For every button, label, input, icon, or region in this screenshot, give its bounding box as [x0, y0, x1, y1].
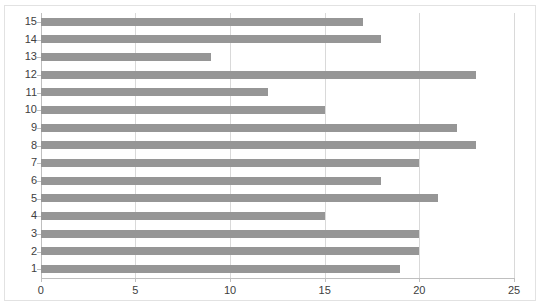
bar-row: [41, 31, 514, 49]
bar-category-1[interactable]: [41, 265, 401, 273]
y-axis-tick-label: 11: [5, 87, 37, 98]
y-tick-mark-8: [37, 146, 41, 147]
y-axis-tick-label: 6: [5, 175, 37, 186]
bar-row: [41, 119, 514, 137]
bar-row: [41, 260, 514, 278]
bar-category-14[interactable]: [41, 35, 382, 43]
y-axis-tick-label: 15: [5, 16, 37, 27]
x-axis-tick-label: 10: [210, 284, 250, 296]
y-axis-tick-label: 5: [5, 193, 37, 204]
y-tick-mark-13: [37, 57, 41, 58]
y-axis-tick-label: 12: [5, 69, 37, 80]
y-tick-mark-9: [37, 128, 41, 129]
bar-row: [41, 101, 514, 119]
y-axis-tick-label: 14: [5, 34, 37, 45]
bar-category-9[interactable]: [41, 124, 458, 132]
bar-row: [41, 13, 514, 31]
x-tick-mark-5: [135, 278, 136, 282]
y-axis-tick-label: 3: [5, 228, 37, 239]
x-tick-mark-0: [41, 278, 42, 282]
y-tick-mark-1: [37, 269, 41, 270]
bar-category-15[interactable]: [41, 18, 363, 26]
y-axis-tick-label: 13: [5, 51, 37, 62]
y-tick-mark-10: [37, 110, 41, 111]
y-tick-mark-3: [37, 234, 41, 235]
bar-category-5[interactable]: [41, 194, 439, 202]
x-axis-tick-label: 0: [21, 284, 61, 296]
bar-row: [41, 84, 514, 102]
bar-category-6[interactable]: [41, 177, 382, 185]
x-tick-mark-20: [419, 278, 420, 282]
bar-row: [41, 190, 514, 208]
bar-row: [41, 154, 514, 172]
bar-row: [41, 243, 514, 261]
bar-category-4[interactable]: [41, 212, 325, 220]
x-tick-mark-25: [514, 278, 515, 282]
x-axis-tick-label: 15: [305, 284, 345, 296]
bar-category-7[interactable]: [41, 159, 420, 167]
bar-category-2[interactable]: [41, 247, 420, 255]
y-tick-mark-6: [37, 181, 41, 182]
bar-row: [41, 225, 514, 243]
bar-category-11[interactable]: [41, 88, 268, 96]
y-tick-mark-4: [37, 216, 41, 217]
x-axis-tick-label: 5: [115, 284, 155, 296]
x-tick-mark-10: [230, 278, 231, 282]
plot-area: [41, 13, 514, 278]
bar-row: [41, 48, 514, 66]
bar-row: [41, 66, 514, 84]
y-axis-tick-label: 2: [5, 246, 37, 257]
y-tick-mark-7: [37, 163, 41, 164]
x-axis-line: [41, 278, 514, 279]
y-tick-mark-12: [37, 75, 41, 76]
bar-row: [41, 172, 514, 190]
y-tick-mark-5: [37, 199, 41, 200]
bar-category-12[interactable]: [41, 71, 476, 79]
y-tick-mark-14: [37, 40, 41, 41]
y-axis-tick-label: 4: [5, 210, 37, 221]
bar-category-8[interactable]: [41, 141, 476, 149]
bar-category-3[interactable]: [41, 230, 420, 238]
gridline-x-25: [514, 13, 515, 278]
x-tick-mark-15: [325, 278, 326, 282]
y-tick-mark-11: [37, 93, 41, 94]
y-axis-tick-label: 9: [5, 122, 37, 133]
y-axis-labels: 123456789101112131415: [0, 13, 37, 278]
x-axis-tick-label: 25: [494, 284, 534, 296]
y-axis-tick-label: 10: [5, 104, 37, 115]
bar-row: [41, 137, 514, 155]
chart-plot-wrapper: 123456789101112131415 0510152025: [0, 0, 541, 306]
y-axis-tick-label: 7: [5, 157, 37, 168]
bar-category-10[interactable]: [41, 106, 325, 114]
y-tick-mark-15: [37, 22, 41, 23]
y-tick-mark-2: [37, 252, 41, 253]
bar-category-13[interactable]: [41, 53, 211, 61]
bar-row: [41, 207, 514, 225]
y-axis-tick-label: 1: [5, 263, 37, 274]
y-axis-tick-label: 8: [5, 140, 37, 151]
x-axis-tick-label: 20: [399, 284, 439, 296]
